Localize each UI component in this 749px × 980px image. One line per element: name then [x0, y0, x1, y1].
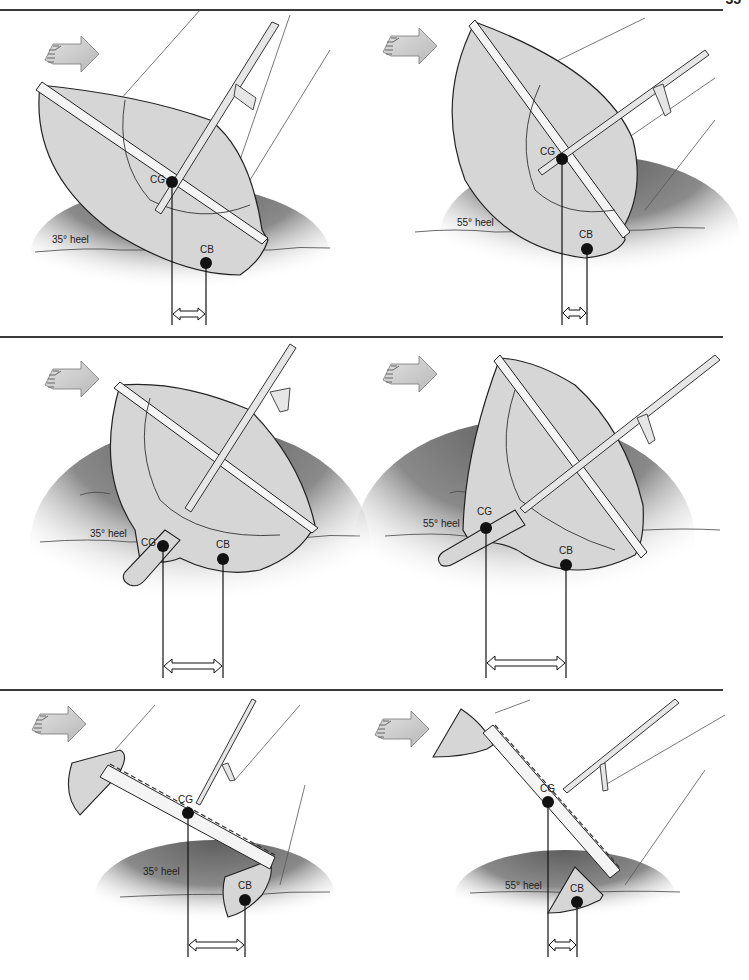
- sail-line: [555, 18, 645, 62]
- sail-line: [605, 715, 725, 785]
- wind-arrow-icon: [45, 36, 99, 72]
- spreader: [600, 763, 608, 791]
- sail-line: [250, 50, 330, 180]
- diagram-panel-row3-55deg: 55° heel CG CB: [375, 685, 749, 980]
- righting-arm-arrow-icon: [549, 939, 576, 951]
- cg-label: CG: [540, 146, 555, 157]
- wind-arrow-icon: [375, 711, 429, 747]
- spreader: [234, 84, 256, 110]
- cb-marker: [200, 257, 212, 269]
- cg-label: CG: [141, 537, 156, 548]
- cb-label: CB: [216, 539, 230, 550]
- cb-marker: [571, 896, 583, 908]
- diagram-panel-row2-55deg: 55° heel CG CB: [375, 330, 749, 685]
- cg-marker: [166, 176, 178, 188]
- cg-label: CG: [540, 783, 555, 794]
- mast: [563, 699, 679, 793]
- deck-rail: [495, 725, 620, 868]
- cb-marker: [239, 894, 251, 906]
- heel-label: 55° heel: [505, 880, 542, 891]
- diagram-panel-row1-55deg: 55° heel CG CB: [375, 0, 749, 330]
- wind-arrow-icon: [383, 28, 437, 64]
- cg-marker: [480, 522, 492, 534]
- sail-line: [115, 705, 155, 750]
- heel-label: 35° heel: [143, 866, 180, 877]
- sail-line: [495, 700, 530, 713]
- heel-label: 55° heel: [457, 217, 494, 228]
- heel-label: 35° heel: [90, 528, 127, 539]
- spreader: [222, 763, 235, 781]
- cb-label: CB: [559, 545, 573, 556]
- spreader: [653, 84, 671, 116]
- wind-arrow-icon: [32, 706, 86, 742]
- cb-marker: [581, 243, 593, 255]
- cg-marker: [157, 540, 169, 552]
- cb-marker: [217, 553, 229, 565]
- wind-arrow-icon: [45, 361, 99, 397]
- wind-arrow-icon: [383, 356, 437, 392]
- cg-marker: [542, 796, 554, 808]
- cb-label: CB: [200, 244, 214, 255]
- cb-marker: [560, 559, 572, 571]
- spreader: [637, 414, 655, 444]
- cg-marker: [182, 807, 194, 819]
- cb-label: CB: [579, 229, 593, 240]
- mast: [196, 699, 256, 805]
- sail-line: [625, 770, 705, 885]
- spreader: [270, 388, 290, 412]
- water-shadow: [95, 840, 335, 950]
- cg-label: CG: [178, 794, 193, 805]
- cg-label: CG: [477, 506, 492, 517]
- diagram-panel-row2-35deg: 35° heel CG CB: [0, 330, 375, 685]
- cg-label: CG: [150, 174, 165, 185]
- cb-label: CB: [238, 880, 252, 891]
- diagram-panel-row1-35deg: 35° heel CG CB: [0, 0, 375, 330]
- heel-label: 55° heel: [423, 518, 460, 529]
- cg-marker: [556, 153, 568, 165]
- heel-label: 35° heel: [52, 234, 89, 245]
- sail-line: [120, 10, 200, 100]
- diagram-panel-row3-35deg: 35° heel CG CB: [0, 685, 375, 980]
- cb-label: CB: [570, 883, 584, 894]
